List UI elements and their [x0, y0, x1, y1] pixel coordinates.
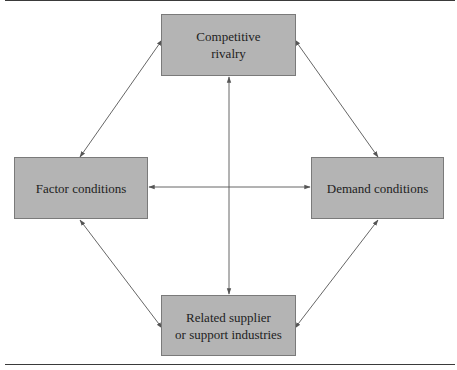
node-label-line: rivalry	[196, 45, 260, 62]
arrow-rivalry-factor	[80, 40, 162, 157]
arrow-demand-related	[295, 220, 378, 328]
node-related-supplier: Related supplier or support industries	[161, 295, 296, 356]
node-factor-conditions: Factor conditions	[14, 157, 148, 219]
arrow-rivalry-demand	[295, 40, 378, 157]
node-competitive-rivalry: Competitive rivalry	[161, 14, 296, 76]
node-label-line: Competitive	[196, 28, 260, 45]
node-label-line: Related supplier	[175, 309, 282, 326]
arrow-factor-related	[80, 220, 162, 328]
node-demand-conditions: Demand conditions	[311, 157, 444, 219]
node-label-line: or support industries	[175, 326, 282, 343]
node-label: Factor conditions	[36, 180, 127, 197]
node-label: Demand conditions	[327, 180, 428, 197]
